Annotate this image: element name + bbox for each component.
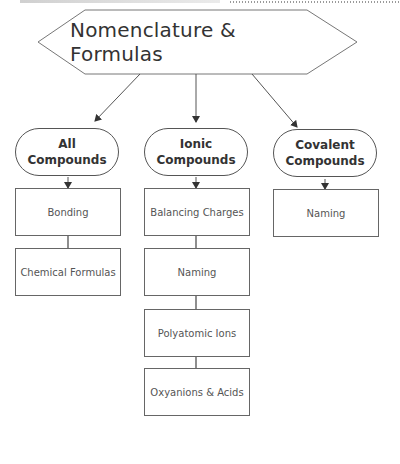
all-compounds-label-2: Compounds: [27, 152, 106, 168]
chemical-formulas-box: Chemical Formulas: [15, 248, 121, 296]
all-compounds-label-1: All: [58, 136, 76, 152]
all-compounds-node: All Compounds: [15, 128, 119, 176]
arrow-to-all-compounds: [95, 74, 140, 121]
ionic-naming-box: Naming: [144, 248, 250, 296]
ionic-compounds-label-1: Ionic: [180, 136, 212, 152]
balancing-charges-box: Balancing Charges: [144, 188, 250, 236]
arrow-to-covalent-compounds: [252, 74, 297, 127]
covalent-naming-box: Naming: [273, 189, 379, 237]
oxyanions-acids-box: Oxyanions & Acids: [144, 368, 250, 416]
bonding-box: Bonding: [15, 188, 121, 236]
diagram-title: Nomenclature & Formulas: [70, 20, 330, 64]
polyatomic-ions-box: Polyatomic Ions: [144, 309, 250, 357]
covalent-compounds-node: Covalent Compounds: [273, 129, 377, 177]
ionic-compounds-label-2: Compounds: [156, 152, 235, 168]
covalent-compounds-label-2: Compounds: [285, 153, 364, 169]
ionic-compounds-node: Ionic Compounds: [144, 128, 248, 176]
covalent-compounds-label-1: Covalent: [295, 137, 355, 153]
